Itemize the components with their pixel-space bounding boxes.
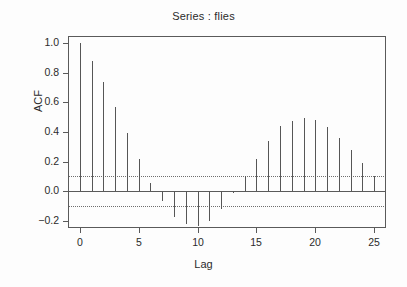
x-tick — [315, 228, 316, 233]
y-tick-label: 0.6 — [44, 95, 59, 107]
x-tick-label: 15 — [241, 236, 271, 248]
x-tick-label: 5 — [124, 236, 154, 248]
plot-title: Series : flies — [0, 10, 407, 22]
x-axis-title: Lag — [0, 258, 407, 270]
y-tick-label: 0.2 — [44, 155, 59, 167]
x-tick — [198, 228, 199, 233]
y-tick-label: 0.4 — [44, 125, 59, 137]
x-tick — [80, 228, 81, 233]
y-tick-label: 0.8 — [44, 66, 59, 78]
acf-plot: Series : flies ACF Lag 1.00.80.60.40.20.… — [0, 0, 407, 287]
x-tick-label: 25 — [359, 236, 389, 248]
x-tick-label: 0 — [65, 236, 95, 248]
x-tick — [256, 228, 257, 233]
x-tick-label: 20 — [300, 236, 330, 248]
y-tick-label: −0.2 — [38, 214, 59, 226]
plot-frame — [68, 36, 386, 228]
x-tick — [374, 228, 375, 233]
y-tick-label: 0.0 — [44, 184, 59, 196]
x-tick-label: 10 — [183, 236, 213, 248]
y-tick-label: 1.0 — [44, 36, 59, 48]
x-tick — [139, 228, 140, 233]
y-axis-title: ACF — [32, 71, 44, 131]
